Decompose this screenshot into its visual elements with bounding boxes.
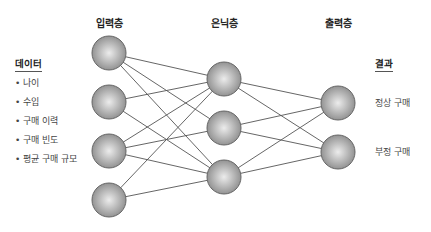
hidden-node [207,160,241,194]
connection-line [224,103,338,177]
hidden-node [207,62,241,96]
connection-line [109,79,224,151]
data-item-age: 나이 [15,76,39,89]
connection-line [109,53,224,79]
connection-line [224,152,338,177]
connection-line [109,151,224,177]
result-fraud-purchase: 부정 구매 [375,145,410,158]
result-panel-title: 결과 [375,56,393,72]
output-layer-title: 출력층 [325,15,352,30]
input-node [92,85,126,119]
data-item-purchase-frequency: 구매 빈도 [15,133,58,146]
data-item-income: 수입 [15,95,39,108]
neural-network-diagram [0,0,431,232]
nodes [92,36,355,217]
result-normal-purchase: 정상 구매 [375,96,410,109]
input-node [92,183,126,217]
input-layer-title: 입력층 [96,15,123,30]
connection-line [109,79,224,200]
data-item-purchase-history: 구매 이력 [15,114,58,127]
input-node [92,36,126,70]
connection-line [224,103,338,128]
hidden-layer-title: 은닉층 [211,15,238,30]
connection-line [109,79,224,102]
output-node [321,86,355,120]
hidden-node [207,111,241,145]
connection-line [109,177,224,200]
data-item-avg-purchase-size: 평균 구매 규모 [15,152,77,165]
output-node [321,135,355,169]
data-panel-title: 데이터 [15,56,42,72]
input-node [92,134,126,168]
